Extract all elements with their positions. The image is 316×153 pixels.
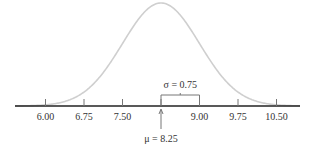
x-tick-label: 6.75 (75, 111, 93, 122)
x-tick-label: 10.50 (265, 111, 288, 122)
x-tick-label: 6.00 (37, 111, 55, 122)
normal-curve-chart: 6.006.757.509.009.7510.50σ = 0.75μ = 8.2… (0, 0, 316, 153)
sigma-label: σ = 0.75 (163, 79, 197, 90)
x-tick-label: 9.00 (191, 111, 209, 122)
x-tick-label: 9.75 (229, 111, 247, 122)
normal-curve (15, 3, 300, 106)
sigma-bracket (161, 93, 200, 105)
x-tick-label: 7.50 (114, 111, 132, 122)
mu-label: μ = 8.25 (144, 133, 178, 144)
